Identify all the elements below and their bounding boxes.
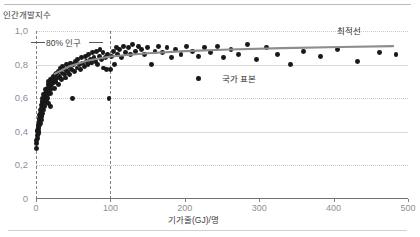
x-tick-mark xyxy=(110,199,111,202)
trendline xyxy=(36,31,408,199)
country-sample-legend-marker xyxy=(196,76,201,81)
x-tick-label: 400 xyxy=(319,203,349,213)
plot-area xyxy=(36,31,408,199)
top-divider xyxy=(4,4,411,5)
x-tick-label: 500 xyxy=(393,203,420,213)
y-tick-label: 0,8 xyxy=(4,59,28,70)
x-tick-mark xyxy=(408,199,409,202)
y-axis-title: 인간개발지수 xyxy=(3,8,51,20)
y-tick-label: 1,0 xyxy=(4,25,28,36)
x-tick-mark xyxy=(259,199,260,202)
country-sample-label: 국가 표본 xyxy=(222,72,256,84)
x-tick-label: 0 xyxy=(21,203,51,213)
x-tick-mark xyxy=(185,199,186,202)
x-tick-mark xyxy=(36,199,37,202)
population-bracket-label: 80% 인구 xyxy=(46,36,81,48)
y-tick-label: 0,2 xyxy=(4,159,28,170)
y-tick-label: 0,6 xyxy=(4,92,28,103)
x-tick-label: 300 xyxy=(244,203,274,213)
x-tick-mark xyxy=(334,199,335,202)
population-bracket-right-tick xyxy=(89,42,103,43)
y-tick-label: 0,4 xyxy=(4,126,28,137)
x-tick-label: 100 xyxy=(95,203,125,213)
population-bracket-left-tick xyxy=(31,42,45,43)
x-axis-title: 기가줄(GJ)/명 xyxy=(168,213,219,225)
x-tick-label: 200 xyxy=(170,203,200,213)
trendline-label: 최적선 xyxy=(337,24,361,36)
bottom-divider xyxy=(8,230,407,231)
